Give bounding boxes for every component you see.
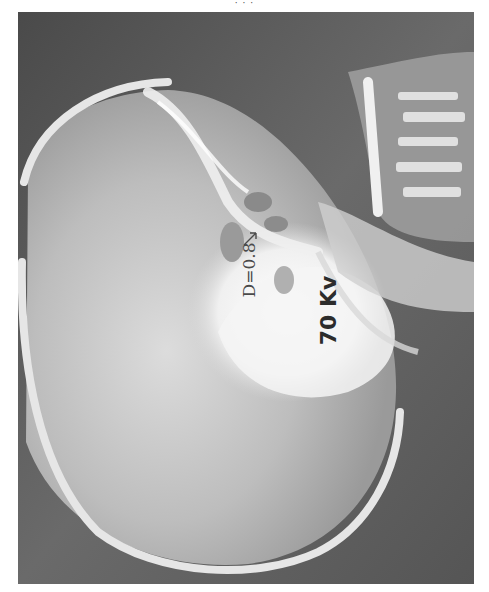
arrow-icon	[240, 227, 262, 249]
page-header-text: · · ·	[0, 0, 489, 12]
density-annotation: D=0.8	[239, 243, 259, 298]
skull-radiograph-graphic	[18, 12, 474, 584]
voltage-annotation: 70 Kv	[316, 276, 341, 346]
xray-image: D=0.8 70 Kv	[18, 12, 474, 584]
